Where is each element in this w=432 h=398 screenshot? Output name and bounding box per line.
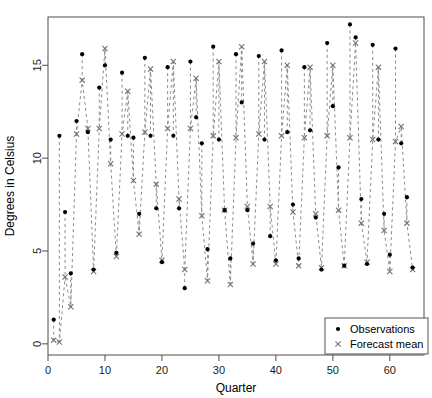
observation-marker [103,63,107,67]
observation-marker [166,65,170,69]
connector-line [367,140,373,264]
observation-marker [194,115,198,119]
connector-line [208,136,214,281]
connector-line [225,210,231,284]
observation-marker [171,134,175,138]
observation-marker [251,241,255,245]
y-tick-label: 15 [31,59,43,71]
observation-marker [154,206,158,210]
connector-line [339,167,345,265]
observation-marker [240,100,244,104]
connector-line [168,62,174,129]
y-tick-label: 0 [31,341,43,347]
x-axis-title: Quarter [216,381,257,395]
connector-line [230,138,236,285]
observations-series [52,22,415,321]
connector-line [373,45,379,140]
observation-marker [126,134,130,138]
observation-marker [371,43,375,47]
observation-marker [348,22,352,26]
connector-line [282,50,288,135]
connector-line [361,199,367,262]
connector-line [162,128,168,262]
observation-marker [160,260,164,264]
observation-marker [411,266,415,270]
observation-marker [63,210,67,214]
connector-line [310,67,316,214]
x-tick-label: 60 [384,364,396,376]
observation-marker [382,212,386,216]
connector-line [111,140,117,257]
observation-marker [297,256,301,260]
observation-marker [234,52,238,56]
forecast-mean-marker [279,133,284,138]
connector-line [202,143,208,280]
observation-marker [217,137,221,141]
connector-line [139,132,145,234]
observation-marker [302,65,306,69]
connector-line [304,67,310,138]
observation-marker [268,234,272,238]
observation-marker [308,128,312,132]
connector-line [65,212,71,307]
observation-marker [274,258,278,262]
connector-lines-layer [54,24,413,342]
forecast-mean-series [51,40,415,344]
observation-marker [314,215,318,219]
connector-line [242,47,248,207]
observation-marker [331,104,335,108]
observation-marker [148,134,152,138]
observation-marker [319,267,323,271]
x-tick-label: 30 [213,364,225,376]
forecast-mean-marker [296,263,301,268]
observation-marker [114,251,118,255]
observation-marker [74,119,78,123]
observation-marker [285,130,289,134]
observation-marker [97,85,101,89]
observation-marker [137,212,141,216]
observation-marker [223,208,227,212]
connector-line [356,37,362,223]
connector-line [236,47,242,138]
connector-line [264,62,270,207]
observation-marker [69,271,73,275]
observation-marker [257,54,261,58]
x-tick-label: 10 [99,364,111,376]
observation-marker [57,134,61,138]
legend-observations-icon [336,327,340,331]
connector-line [333,65,339,210]
connector-line [407,197,413,269]
observation-marker [211,45,215,49]
x-tick-label: 20 [156,364,168,376]
observation-marker [354,35,358,39]
observation-marker [359,197,363,201]
connector-line [378,67,384,230]
chart-container: 0102030405060051015QuarterDegrees in Cel… [0,0,432,398]
observation-marker [245,208,249,212]
observation-marker [388,253,392,257]
connector-line [321,136,327,270]
connector-line [151,69,157,184]
connector-line [145,58,151,132]
observation-marker [393,46,397,50]
observation-marker [279,48,283,52]
observation-marker [188,59,192,63]
connector-line [276,136,282,264]
connector-line [196,78,202,215]
connector-line [59,136,65,342]
observation-marker [120,71,124,75]
observation-marker [291,202,295,206]
connector-line [219,62,225,211]
legend-label: Forecast mean [350,338,423,350]
x-tick-label: 40 [270,364,282,376]
connector-line [259,56,265,134]
observation-marker [365,262,369,266]
observation-marker [228,256,232,260]
connector-line [88,128,94,271]
y-axis-title: Degrees in Celsius [3,136,17,237]
observation-marker [376,137,380,141]
x-tick-label: 0 [45,364,51,376]
y-tick-label: 5 [31,248,43,254]
connector-line [71,134,77,307]
observation-marker [399,141,403,145]
